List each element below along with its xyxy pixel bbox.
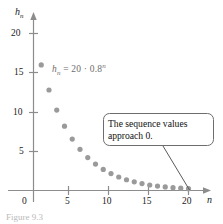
x-axis-label: n (207, 194, 212, 205)
data-point (93, 162, 98, 167)
data-point (39, 62, 44, 67)
x-tick-label-15: 15 (142, 196, 152, 206)
data-point (116, 174, 121, 179)
x-axis-arrowhead (203, 187, 211, 193)
data-point (77, 147, 82, 152)
formula-body: = 20 · 0.8 (61, 64, 103, 74)
data-point (132, 179, 137, 184)
x-tick-label-20: 20 (182, 196, 192, 206)
data-point (155, 184, 160, 189)
y-axis-arrowhead (30, 12, 36, 20)
data-point (124, 177, 129, 182)
formula-exponent: n (102, 62, 106, 70)
x-tick-label-5: 5 (65, 196, 70, 206)
callout-text: The sequence values approach 0. (108, 118, 210, 142)
x-tick-label-10: 10 (102, 196, 112, 206)
data-point (147, 182, 152, 187)
y-tick-label-10: 10 (13, 107, 23, 117)
y-tick-label-5: 5 (19, 146, 24, 156)
data-point (85, 155, 90, 160)
data-point (62, 124, 67, 129)
y-tick-label-15: 15 (14, 67, 24, 77)
data-point (139, 181, 144, 186)
data-point (163, 184, 168, 189)
plot-canvas (0, 0, 223, 224)
y-axis-label: hn (15, 6, 24, 20)
x-tick-label-0: 0 (22, 196, 27, 206)
y-axis-label-subscript: n (20, 12, 24, 20)
data-point (170, 185, 175, 190)
data-point (178, 186, 183, 191)
data-point (54, 108, 59, 113)
figure-caption: Figure 9.3 (6, 212, 43, 222)
formula-annotation: hn = 20 · 0.8n (52, 62, 106, 77)
data-point (46, 87, 51, 92)
data-point (108, 171, 113, 176)
sequence-scatter-figure: 20 15 10 5 0 5 10 15 20 hn n hn = 20 · 0… (0, 0, 223, 224)
data-point (70, 136, 75, 141)
data-point (101, 167, 106, 172)
callout-leader-line (163, 146, 190, 190)
y-tick-label-20: 20 (11, 28, 21, 38)
